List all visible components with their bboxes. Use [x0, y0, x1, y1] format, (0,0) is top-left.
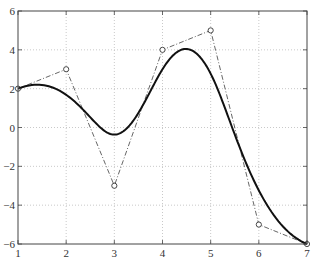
y-tick-label: −4 [3, 199, 15, 211]
y-tick-label: 0 [10, 122, 16, 134]
y-tick-label: −2 [3, 160, 15, 172]
control-point-marker [256, 222, 261, 227]
y-tick-label: 4 [10, 44, 16, 56]
x-tick-label: 7 [304, 247, 310, 259]
x-tick-label: 2 [63, 247, 69, 259]
control-point-marker [208, 28, 213, 33]
spline-chart: 1234567 −6−4−20246 [0, 0, 311, 264]
y-tick-label: −6 [3, 238, 15, 250]
x-tick-label: 6 [256, 247, 262, 259]
control-point-marker [160, 47, 165, 52]
y-tick-label: 2 [10, 83, 16, 95]
x-tick-label: 4 [160, 247, 166, 259]
y-tick-label: 6 [10, 5, 16, 17]
control-point-marker [112, 183, 117, 188]
x-tick-label: 5 [208, 247, 214, 259]
control-point-marker [64, 67, 69, 72]
grid-lines [18, 11, 307, 244]
x-tick-label: 3 [112, 247, 118, 259]
x-tick-label: 1 [15, 247, 21, 259]
